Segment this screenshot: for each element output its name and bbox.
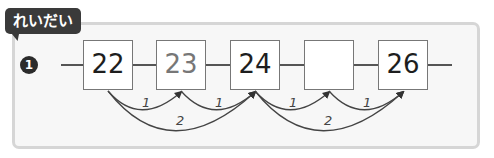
example-tag: れいだい [5, 8, 81, 34]
arc-label-plus1: 1 [142, 95, 150, 110]
arc-label-plus2: 2 [324, 113, 332, 128]
arc-label-plus1: 1 [363, 95, 371, 110]
arc-label-plus1: 1 [289, 95, 297, 110]
arc-label-plus2: 2 [176, 113, 184, 128]
arc-label-plus1: 1 [215, 95, 223, 110]
